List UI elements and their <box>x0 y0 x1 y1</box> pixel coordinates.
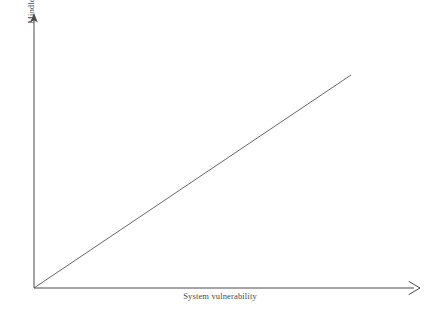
data-line-series-0 <box>34 75 351 288</box>
x-axis-label: System vulnerability <box>0 291 440 301</box>
plot-area <box>0 0 440 319</box>
chart-figure: System vulnerability Mindlessness <box>0 0 440 319</box>
y-axis-label: Mindlessness <box>26 0 36 24</box>
